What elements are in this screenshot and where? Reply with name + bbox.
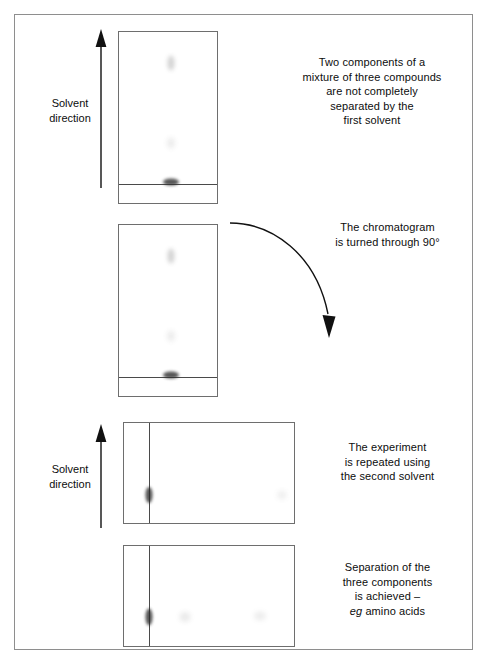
- spot-origin-merged: [163, 372, 179, 379]
- spot-component-a: [167, 55, 174, 70]
- spot-component-a: [167, 248, 174, 263]
- plate-4-baseline: [149, 546, 150, 646]
- caption-step-1-line-3: are not completely: [283, 84, 461, 99]
- plate-3-baseline: [149, 423, 150, 523]
- caption-step-4-line-3: is achieved –: [305, 589, 470, 604]
- caption-step-4-line-2: three components: [305, 575, 470, 590]
- caption-step-3-line-1: The experiment: [305, 440, 470, 455]
- caption-step-1-line-2: mixture of three compounds: [283, 70, 461, 85]
- caption-step-2: The chromatogram is turned through 90°: [305, 220, 470, 249]
- figure-canvas: Solvent direction Two components of a mi…: [0, 0, 490, 666]
- caption-step-3-line-3: the second solvent: [305, 469, 470, 484]
- caption-step-1-line-5: first solvent: [283, 113, 461, 128]
- caption-step-1-line-1: Two components of a: [283, 55, 461, 70]
- caption-step-4-line-4: eg amino acids: [305, 604, 470, 619]
- spot-component-3: [254, 612, 266, 621]
- caption-step-1: Two components of a mixture of three com…: [283, 55, 461, 128]
- spot-component-b: [277, 491, 287, 500]
- plate-3-rotated-second-solvent-start: [123, 422, 295, 524]
- solvent-direction-arrow-bottom: [90, 423, 112, 528]
- plate-1-first-solvent-run: [118, 31, 218, 204]
- caption-step-3: The experiment is repeated using the sec…: [305, 440, 470, 484]
- plate-2-before-rotation: [118, 224, 218, 397]
- solvent-direction-arrow-top: [90, 28, 112, 188]
- spot-origin-merged: [146, 487, 153, 503]
- plate-4-fully-separated: [123, 545, 295, 647]
- spot-origin-merged: [163, 179, 179, 186]
- caption-step-3-line-2: is repeated using: [305, 455, 470, 470]
- caption-step-2-line-2: is turned through 90°: [305, 235, 470, 250]
- caption-step-4-amino-acids: amino acids: [362, 605, 425, 617]
- caption-step-4-eg: eg: [350, 605, 362, 617]
- caption-step-2-line-1: The chromatogram: [305, 220, 470, 235]
- spot-component-b: [167, 331, 175, 342]
- caption-step-4: Separation of the three components is ac…: [305, 560, 470, 618]
- caption-step-4-line-1: Separation of the: [305, 560, 470, 575]
- spot-component-2: [180, 612, 191, 622]
- spot-component-1: [146, 609, 153, 626]
- caption-step-1-line-4: separated by the: [283, 99, 461, 114]
- spot-component-b: [167, 138, 175, 149]
